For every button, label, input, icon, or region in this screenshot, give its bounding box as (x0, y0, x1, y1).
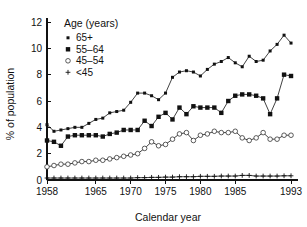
data-point (255, 60, 258, 63)
data-point (142, 146, 147, 151)
data-point (269, 49, 272, 52)
data-point (219, 130, 224, 135)
data-point (261, 96, 265, 100)
data-point (275, 174, 280, 179)
legend-marker (66, 47, 70, 51)
data-point (247, 173, 252, 178)
data-point (80, 133, 84, 137)
data-point (206, 68, 209, 71)
data-point (289, 133, 294, 138)
data-point (108, 111, 111, 114)
data-point (66, 127, 69, 130)
data-point (220, 60, 223, 63)
data-point (121, 128, 125, 132)
data-point (205, 132, 210, 137)
data-point (233, 174, 238, 179)
data-point (122, 109, 125, 112)
data-point (100, 158, 105, 163)
data-point (177, 105, 181, 109)
data-point (129, 101, 132, 104)
data-point (177, 174, 182, 179)
data-point (66, 162, 71, 167)
data-point (87, 122, 90, 125)
data-point (73, 133, 77, 137)
data-point (247, 138, 252, 143)
line-chart: 024681012 1958196519701975198019851993 A… (0, 0, 307, 227)
legend-label: 45–54 (76, 55, 104, 66)
y-axis: 024681012 (31, 17, 51, 186)
data-point (115, 130, 119, 134)
data-point (87, 159, 92, 164)
data-point (282, 133, 287, 138)
data-point (156, 175, 161, 180)
legend-label: <45 (76, 67, 93, 78)
data-point (241, 65, 244, 68)
data-point (135, 128, 139, 132)
y-tick-label: 6 (36, 96, 42, 107)
data-point (226, 174, 231, 179)
data-point (121, 154, 126, 159)
data-point (290, 42, 293, 45)
data-point (198, 105, 202, 109)
data-point (268, 112, 272, 116)
data-point (282, 72, 286, 76)
data-point (254, 136, 259, 141)
data-point (108, 132, 112, 136)
data-point (240, 173, 245, 178)
data-point (184, 174, 189, 179)
data-point (59, 144, 63, 148)
y-axis-label: % of population (4, 68, 16, 141)
chart-figure: 024681012 1958196519701975198019851993 A… (0, 0, 307, 227)
data-point (149, 124, 153, 128)
data-point (73, 126, 76, 129)
data-point (275, 137, 280, 142)
data-point (282, 173, 287, 178)
data-point (198, 133, 203, 138)
data-point (177, 132, 182, 137)
x-tick-label: 1965 (85, 186, 108, 197)
data-point (212, 129, 217, 134)
x-tick-label: 1970 (120, 186, 143, 197)
data-point (46, 123, 49, 126)
y-tick-label: 10 (31, 43, 43, 54)
data-point (268, 174, 273, 179)
y-tick-label: 2 (36, 148, 42, 159)
data-point (80, 159, 85, 164)
data-point (52, 130, 55, 133)
x-tick-label: 1985 (224, 186, 247, 197)
data-point (205, 105, 209, 109)
data-point (227, 56, 230, 59)
data-point (213, 63, 216, 66)
data-point (226, 130, 231, 135)
data-point (170, 137, 175, 142)
data-point (128, 128, 132, 132)
data-point (268, 137, 273, 142)
x-tick-label: 1958 (36, 186, 59, 197)
data-point (254, 174, 259, 179)
data-point (178, 71, 181, 74)
data-point (143, 92, 146, 95)
data-point (59, 162, 64, 167)
data-point (233, 94, 237, 98)
data-point (170, 175, 175, 180)
data-point (240, 92, 244, 96)
data-point (142, 175, 147, 180)
data-point (164, 92, 167, 95)
data-point (52, 163, 57, 168)
data-point (191, 174, 196, 179)
data-point (261, 174, 266, 179)
data-point (156, 115, 160, 119)
data-point (87, 133, 91, 137)
chart-legend: Age (years)65+55–6445–54<45 (64, 17, 118, 78)
data-point (276, 43, 279, 46)
x-axis: 1958196519701975198019851993 (36, 180, 303, 197)
data-point (136, 92, 139, 95)
data-point (52, 140, 56, 144)
data-point (254, 94, 258, 98)
data-point (212, 174, 217, 179)
data-point (94, 158, 99, 163)
data-point (149, 175, 154, 180)
data-point (219, 111, 223, 115)
data-point (184, 130, 189, 135)
data-point (283, 34, 286, 37)
